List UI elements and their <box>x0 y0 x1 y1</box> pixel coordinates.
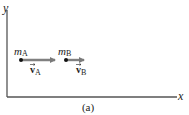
mass-dot-a <box>19 58 23 62</box>
object-b: mB vB <box>58 45 86 77</box>
velocity-label-b: vB <box>76 64 86 77</box>
collision-diagram: y x mA vA mB vB (a) <box>0 0 189 115</box>
object-a: mA vA <box>14 45 55 77</box>
velocity-label-a: vA <box>30 64 41 77</box>
mass-label-b: mB <box>58 45 71 58</box>
mass-label-a: mA <box>14 45 28 58</box>
x-axis-label: x <box>177 89 184 103</box>
y-axis-label: y <box>2 1 9 15</box>
figure-caption: (a) <box>82 101 95 114</box>
mass-dot-b <box>64 58 68 62</box>
